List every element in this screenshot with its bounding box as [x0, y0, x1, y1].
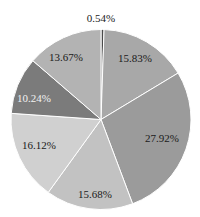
- slice-label-0: 0.54%: [87, 12, 115, 24]
- slice-label-6: 13.67%: [49, 51, 83, 63]
- slice-label-2: 27.92%: [145, 132, 179, 144]
- pie-slices: [11, 29, 191, 209]
- pie-chart: 0.54% 15.83% 27.92% 15.68% 16.12% 10.24%…: [0, 0, 200, 217]
- slice-label-3: 15.68%: [78, 188, 112, 200]
- slice-label-1: 15.83%: [118, 52, 152, 64]
- slice-label-5: 10.24%: [17, 92, 51, 104]
- slice-label-4: 16.12%: [22, 139, 56, 151]
